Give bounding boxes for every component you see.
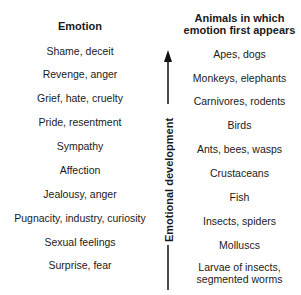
- animals-item: Larvae of insects,: [178, 261, 301, 273]
- emotion-item: Surprise, fear: [0, 259, 160, 271]
- animals-item: Apes, dogs: [178, 48, 301, 60]
- emotion-item: Pride, resentment: [0, 116, 160, 128]
- animals-item: Ants, bees, wasps: [178, 143, 301, 155]
- animals-item: Insects, spiders: [178, 215, 301, 227]
- emotion-item: Sexual feelings: [0, 236, 160, 248]
- animals-header-line2: emotion first appears: [178, 24, 301, 36]
- axis-label: Emotional development: [163, 118, 175, 242]
- emotion-item: Pugnacity, industry, curiosity: [0, 212, 160, 224]
- emotion-item: Grief, hate, cruelty: [0, 92, 160, 104]
- animals-header-line1: Animals in which: [178, 12, 301, 24]
- emotion-item: Affection: [0, 164, 160, 176]
- animals-item: Fish: [178, 191, 301, 203]
- emotion-column: Emotion Shame, deceit Revenge, anger Gri…: [0, 0, 160, 295]
- emotion-item: Revenge, anger: [0, 68, 160, 80]
- animals-item-line2: segmented worms: [178, 273, 301, 285]
- animals-column: Animals in which emotion first appears A…: [178, 0, 301, 295]
- animals-item: Carnivores, rodents: [178, 95, 301, 107]
- emotion-item: Sympathy: [0, 140, 160, 152]
- animals-item: Monkeys, elephants: [178, 72, 301, 84]
- animals-item: Molluscs: [178, 239, 301, 251]
- animals-item: Birds: [178, 119, 301, 131]
- animals-item: Crustaceans: [178, 167, 301, 179]
- emotion-item: Jealousy, anger: [0, 188, 160, 200]
- emotion-header: Emotion: [0, 20, 160, 32]
- emotion-item: Shame, deceit: [0, 45, 160, 57]
